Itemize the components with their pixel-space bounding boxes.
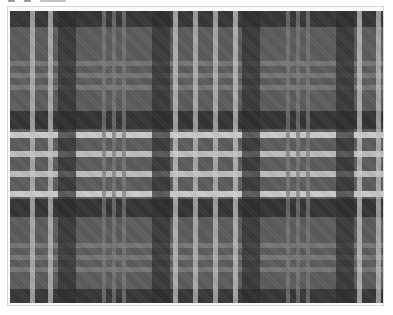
toolbar-icon-2[interactable] bbox=[24, 0, 31, 2]
vertical-stripe bbox=[30, 11, 35, 303]
vertical-stripe bbox=[213, 11, 218, 303]
vertical-stripe bbox=[376, 11, 381, 303]
vertical-stripe bbox=[193, 11, 198, 303]
vertical-stripe bbox=[48, 11, 53, 303]
toolbar-icon-1[interactable] bbox=[8, 0, 15, 2]
vertical-stripe bbox=[58, 11, 76, 303]
vertical-stripe bbox=[357, 11, 362, 303]
toolbar-icon-3[interactable] bbox=[40, 0, 66, 2]
vertical-stripe bbox=[296, 11, 300, 303]
plaid-pattern-image bbox=[10, 11, 383, 303]
vertical-stripe bbox=[152, 11, 170, 303]
vertical-stripe bbox=[102, 11, 106, 303]
vertical-stripe bbox=[173, 11, 178, 303]
vertical-stripe bbox=[336, 11, 354, 303]
vertical-stripe bbox=[122, 11, 126, 303]
vertical-stripe bbox=[233, 11, 238, 303]
vertical-stripe bbox=[242, 11, 260, 303]
vertical-stripe bbox=[306, 11, 310, 303]
vertical-stripe bbox=[112, 11, 116, 303]
vertical-stripe bbox=[286, 11, 290, 303]
